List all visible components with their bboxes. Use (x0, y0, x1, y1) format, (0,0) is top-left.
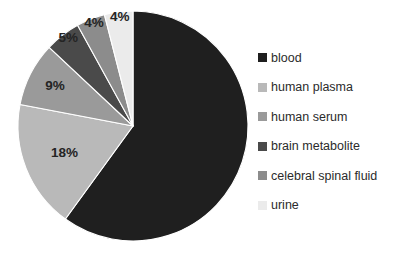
legend-item-label: brain metabolite (271, 140, 360, 153)
legend-swatch-icon (258, 53, 267, 62)
pie-slices-group (18, 11, 248, 241)
chart-legend: bloodhuman plasmahuman serumbrain metabo… (257, 43, 420, 220)
legend-item[interactable]: urine (257, 191, 420, 221)
legend-item[interactable]: blood (257, 43, 420, 73)
legend-item-label: human serum (271, 111, 347, 124)
legend-item-label: urine (271, 199, 299, 212)
pie-slice-label: 4% (110, 9, 130, 24)
legend-item-label: celebral spinal fluid (271, 170, 377, 183)
legend-item[interactable]: human plasma (257, 73, 420, 103)
legend-swatch-icon (258, 83, 267, 92)
legend-item[interactable]: brain metabolite (257, 132, 420, 162)
pie-slice-label: 4% (84, 15, 104, 30)
legend-item[interactable]: human serum (257, 102, 420, 132)
pie-svg: 18%9%5%4%4% (0, 0, 258, 257)
pie-slice-label: 5% (58, 30, 78, 45)
pie-slice-label: 18% (51, 145, 78, 160)
pie-slice-label: 9% (45, 78, 65, 93)
legend-item[interactable]: celebral spinal fluid (257, 161, 420, 191)
legend-swatch-icon (258, 171, 267, 180)
pie-chart-figure: 18%9%5%4%4% bloodhuman plasmahuman serum… (0, 0, 420, 257)
legend-swatch-icon (258, 142, 267, 151)
legend-swatch-icon (258, 112, 267, 121)
pie-plot-area: 18%9%5%4%4% (0, 0, 258, 257)
legend-item-label: blood (271, 52, 302, 65)
legend-item-label: human plasma (271, 81, 353, 94)
legend-swatch-icon (258, 201, 267, 210)
